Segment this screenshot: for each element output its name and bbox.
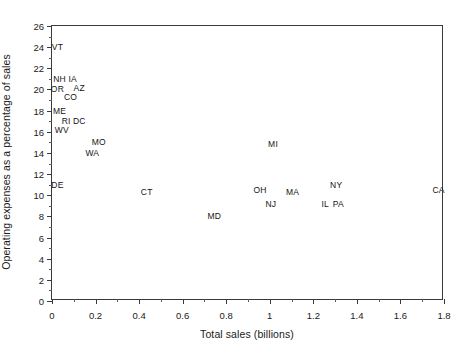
y-tick-label: 22: [14, 63, 44, 74]
y-tick: [47, 238, 52, 239]
x-tick: [313, 299, 314, 304]
data-point-label: CO: [64, 92, 77, 102]
x-tick-minor: [335, 299, 336, 302]
x-tick: [444, 299, 445, 304]
x-tick-minor: [292, 299, 293, 302]
data-point-label: NJ: [265, 199, 276, 209]
x-axis-title: Total sales (billions): [51, 328, 443, 340]
y-tick-label: 2: [14, 274, 44, 285]
data-point-label: WV: [55, 125, 69, 135]
data-point-label: MD: [207, 211, 221, 221]
y-tick-minor: [49, 269, 52, 270]
y-tick-minor: [49, 121, 52, 122]
y-axis-title: Operating expenses as a percentage of sa…: [0, 12, 18, 312]
y-tick: [47, 111, 52, 112]
data-point-label: WA: [85, 148, 99, 158]
y-tick: [47, 68, 52, 69]
x-tick-minor: [422, 299, 423, 302]
y-tick-label: 8: [14, 211, 44, 222]
y-tick-label: 14: [14, 147, 44, 158]
data-point-label: IL: [322, 199, 330, 209]
data-point-label: NY: [330, 180, 342, 190]
y-tick-label: 12: [14, 169, 44, 180]
y-tick-minor: [49, 248, 52, 249]
x-tick-label: 1.8: [437, 310, 450, 321]
x-tick: [52, 299, 53, 304]
data-point-label: MO: [92, 137, 106, 147]
data-point-label: MA: [286, 187, 299, 197]
data-point-label: CT: [141, 187, 153, 197]
y-tick: [47, 195, 52, 196]
data-point-label: CA: [432, 185, 444, 195]
x-tick-minor: [117, 299, 118, 302]
y-tick: [47, 280, 52, 281]
y-tick-minor: [49, 79, 52, 80]
data-point-label: DC: [73, 116, 86, 126]
data-point-label: VT: [52, 42, 63, 52]
y-tick-minor: [49, 100, 52, 101]
x-tick-label: 0.4: [133, 310, 146, 321]
x-tick-label: 0.2: [89, 310, 102, 321]
y-tick-minor: [49, 227, 52, 228]
x-tick-minor: [248, 299, 249, 302]
x-tick-label: 1: [267, 310, 272, 321]
x-tick: [139, 299, 140, 304]
y-tick-label: 6: [14, 232, 44, 243]
x-tick-label: 1.6: [394, 310, 407, 321]
x-tick-label: 1.2: [307, 310, 320, 321]
y-tick: [47, 174, 52, 175]
y-tick-minor: [49, 164, 52, 165]
y-tick: [47, 26, 52, 27]
x-tick: [400, 299, 401, 304]
data-point-label: MI: [268, 139, 278, 149]
y-tick-minor: [49, 37, 52, 38]
data-point-label: NH: [53, 74, 66, 84]
data-point-label: OR: [51, 84, 64, 94]
y-tick-label: 18: [14, 105, 44, 116]
data-point-label: OH: [253, 185, 266, 195]
x-tick-minor: [161, 299, 162, 302]
data-point-label: IA: [68, 74, 76, 84]
y-tick: [47, 259, 52, 260]
data-point-label: ME: [53, 106, 66, 116]
data-point-label: DE: [51, 180, 63, 190]
x-tick: [183, 299, 184, 304]
x-tick: [357, 299, 358, 304]
y-tick-minor: [49, 142, 52, 143]
y-tick-label: 16: [14, 126, 44, 137]
y-tick-minor: [49, 290, 52, 291]
y-tick-label: 4: [14, 253, 44, 264]
x-tick: [96, 299, 97, 304]
x-tick-label: 0.6: [176, 310, 189, 321]
x-tick: [270, 299, 271, 304]
y-tick-label: 20: [14, 84, 44, 95]
y-tick: [47, 132, 52, 133]
x-tick-label: 0.8: [220, 310, 233, 321]
x-tick: [226, 299, 227, 304]
x-tick-minor: [204, 299, 205, 302]
data-point-label: PA: [333, 199, 344, 209]
y-tick-label: 26: [14, 21, 44, 32]
y-tick: [47, 153, 52, 154]
x-tick-label: 0: [49, 310, 54, 321]
x-tick-label: 1.4: [350, 310, 363, 321]
y-tick-label: 0: [14, 296, 44, 307]
y-tick: [47, 216, 52, 217]
scatter-chart: Operating expenses as a percentage of sa…: [0, 0, 467, 358]
x-tick-minor: [74, 299, 75, 302]
y-tick-minor: [49, 206, 52, 207]
x-tick-minor: [379, 299, 380, 302]
y-tick-label: 24: [14, 42, 44, 53]
plot-area: 02468101214161820222426 00.20.40.60.811.…: [51, 25, 443, 300]
y-tick-minor: [49, 58, 52, 59]
y-tick-label: 10: [14, 190, 44, 201]
